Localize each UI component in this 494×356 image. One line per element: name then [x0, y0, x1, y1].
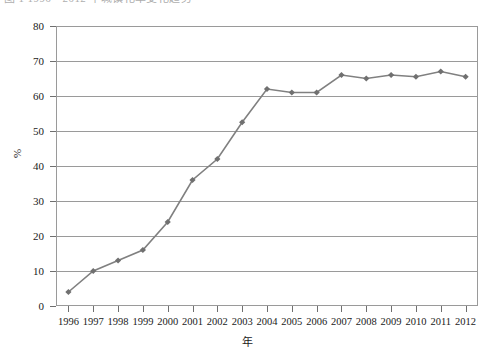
x-tick-mark — [267, 306, 268, 312]
x-tick-label: 1996 — [58, 316, 79, 327]
x-tick-label: 2011 — [430, 316, 451, 327]
x-tick-label: 2008 — [356, 316, 377, 327]
x-tick-label: 1999 — [132, 316, 153, 327]
x-tick-mark — [193, 306, 194, 312]
x-tick-label: 2001 — [182, 316, 203, 327]
x-tick-label: 2003 — [232, 316, 253, 327]
x-tick-mark — [292, 306, 293, 312]
x-tick-mark — [416, 306, 417, 312]
x-tick-label: 2000 — [157, 316, 178, 327]
x-axis: 1996199719981999200020012002200320042005… — [0, 0, 494, 356]
x-tick-label: 2007 — [331, 316, 352, 327]
x-tick-mark — [391, 306, 392, 312]
x-tick-mark — [68, 306, 69, 312]
x-tick-mark — [168, 306, 169, 312]
x-tick-mark — [366, 306, 367, 312]
x-tick-mark — [441, 306, 442, 312]
line-chart: 01020304050607080 % 19961997199819992000… — [0, 0, 494, 356]
x-tick-mark — [242, 306, 243, 312]
x-tick-mark — [217, 306, 218, 312]
x-axis-title: 年 — [0, 336, 494, 348]
x-tick-label: 2012 — [455, 316, 476, 327]
x-tick-label: 1997 — [83, 316, 104, 327]
x-tick-label: 1998 — [108, 316, 129, 327]
x-tick-label: 2006 — [306, 316, 327, 327]
x-tick-mark — [143, 306, 144, 312]
x-tick-mark — [93, 306, 94, 312]
x-tick-label: 2009 — [381, 316, 402, 327]
x-tick-label: 2005 — [281, 316, 302, 327]
x-tick-label: 2010 — [405, 316, 426, 327]
x-tick-label: 2004 — [257, 316, 278, 327]
x-tick-mark — [317, 306, 318, 312]
x-tick-mark — [466, 306, 467, 312]
x-tick-mark — [341, 306, 342, 312]
x-tick-label: 2002 — [207, 316, 228, 327]
x-tick-mark — [118, 306, 119, 312]
